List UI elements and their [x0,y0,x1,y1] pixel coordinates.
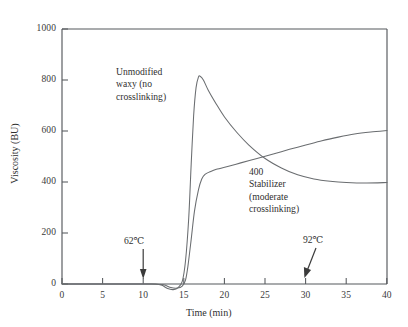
y-tick-label-600: 600 [18,125,56,135]
x-tick-label-5: 5 [93,290,113,300]
y-tick-label-1000: 1000 [18,23,56,33]
temperature-annotation-92c: 92℃ [303,234,323,245]
y-tick-label-200: 200 [18,227,56,237]
y-tick-label-800: 800 [18,74,56,84]
x-tick-label-15: 15 [174,290,194,300]
series-line-400-stabilizer [62,130,387,288]
arrow-62c [140,249,147,279]
series-label-line: waxy (no [116,78,166,90]
x-tick-label-30: 30 [296,290,316,300]
arrow-92c [304,248,316,278]
x-tick-label-20: 20 [214,290,234,300]
temperature-annotation-62c: 62℃ [124,235,144,246]
x-tick-label-35: 35 [336,290,356,300]
y-axis-title: Viscosity (BU) [9,106,20,202]
x-tick-label-0: 0 [52,290,72,300]
x-tick-label-10: 10 [133,290,153,300]
series-label-line: 400 [249,166,299,178]
chart-plot-area [0,0,408,327]
series-line-unmodified-waxy [62,76,387,290]
series-label-unmodified-waxy: Unmodified waxy (no crosslinking) [116,66,166,103]
x-axis-ticks [62,278,387,284]
series-label-line: (moderate [249,191,299,203]
y-axis-ticks [62,29,68,284]
axes-group [62,29,387,284]
series-label-400-stabilizer: 400 Stabilizer (moderate crosslinking) [249,166,299,215]
y-tick-label-400: 400 [18,176,56,186]
x-axis-title: Time (min) [186,307,231,318]
series-label-line: Unmodified [116,66,166,78]
y-tick-label-0: 0 [18,278,56,288]
x-tick-label-40: 40 [377,290,397,300]
series-label-line: crosslinking) [116,91,166,103]
series-label-line: Stabilizer [249,178,299,190]
series-label-line: crosslinking) [249,203,299,215]
viscosity-chart: 1000 800 600 400 200 0 0 5 10 15 20 25 3… [0,0,408,327]
x-tick-label-25: 25 [255,290,275,300]
